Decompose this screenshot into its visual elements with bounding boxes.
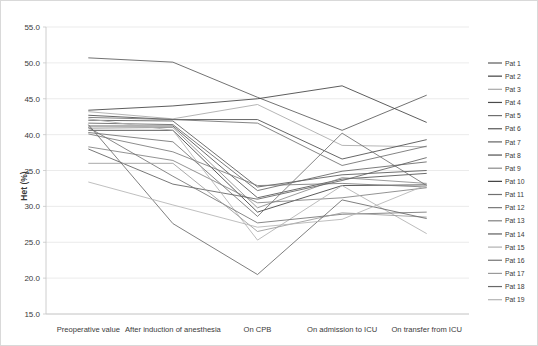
y-axis-tick-label: 50.0 bbox=[24, 59, 40, 68]
legend-label-pat-7: Pat 7 bbox=[505, 139, 521, 146]
x-axis-category-label: After induction of anesthesia bbox=[125, 325, 222, 334]
y-axis-title: Het (%) bbox=[19, 171, 29, 200]
y-axis-tick-label: 55.0 bbox=[24, 23, 40, 32]
gridlines-group bbox=[46, 27, 469, 314]
line-chart: 15.020.025.030.035.040.045.050.055.0 Het… bbox=[1, 1, 538, 346]
chart-container: 15.020.025.030.035.040.045.050.055.0 Het… bbox=[0, 0, 538, 346]
legend-label-pat-2: Pat 2 bbox=[505, 73, 521, 80]
legend-label-pat-8: Pat 8 bbox=[505, 152, 521, 159]
x-axis-category-label: On admission to ICU bbox=[307, 325, 377, 334]
y-axis-tick-label: 20.0 bbox=[24, 274, 40, 283]
y-axis-tick-label: 15.0 bbox=[24, 310, 40, 319]
legend-label-pat-6: Pat 6 bbox=[505, 125, 521, 132]
legend-label-pat-5: Pat 5 bbox=[505, 112, 521, 119]
series-line-pat-4 bbox=[88, 115, 426, 159]
y-axis-tick-labels: 15.020.025.030.035.040.045.050.055.0 bbox=[24, 23, 46, 319]
y-axis-tick-label: 30.0 bbox=[24, 202, 40, 211]
x-axis-category-label: Preoperative value bbox=[57, 325, 120, 334]
x-axis-category-label: On CPB bbox=[244, 325, 272, 334]
y-axis-tick-label: 40.0 bbox=[24, 131, 40, 140]
legend-label-pat-13: Pat 13 bbox=[505, 217, 525, 224]
legend-label-pat-9: Pat 9 bbox=[505, 165, 521, 172]
series-line-pat-12 bbox=[88, 134, 426, 187]
legend-label-pat-12: Pat 12 bbox=[505, 204, 525, 211]
legend-label-pat-11: Pat 11 bbox=[505, 191, 524, 198]
legend-label-pat-1: Pat 1 bbox=[505, 60, 521, 67]
series-line-pat-5 bbox=[88, 117, 426, 165]
legend-label-pat-17: Pat 17 bbox=[505, 270, 525, 277]
legend-label-pat-3: Pat 3 bbox=[505, 86, 521, 93]
series-line-pat-15 bbox=[88, 119, 426, 240]
x-axis-category-label: On transfer from ICU bbox=[391, 325, 461, 334]
y-axis-tick-label: 25.0 bbox=[24, 238, 40, 247]
chart-legend: Pat 1Pat 2Pat 3Pat 4Pat 5Pat 6Pat 7Pat 8… bbox=[488, 60, 525, 304]
legend-label-pat-19: Pat 19 bbox=[505, 296, 525, 303]
legend-label-pat-10: Pat 10 bbox=[505, 178, 525, 185]
legend-label-pat-4: Pat 4 bbox=[505, 99, 521, 106]
legend-label-pat-16: Pat 16 bbox=[505, 257, 525, 264]
legend-label-pat-18: Pat 18 bbox=[505, 283, 525, 290]
series-line-pat-13 bbox=[88, 147, 426, 203]
legend-label-pat-15: Pat 15 bbox=[505, 244, 525, 251]
legend-label-pat-14: Pat 14 bbox=[505, 231, 525, 238]
y-axis-tick-label: 45.0 bbox=[24, 95, 40, 104]
x-axis-category-labels: Preoperative valueAfter induction of ane… bbox=[57, 325, 462, 334]
series-line-pat-16 bbox=[88, 127, 426, 222]
